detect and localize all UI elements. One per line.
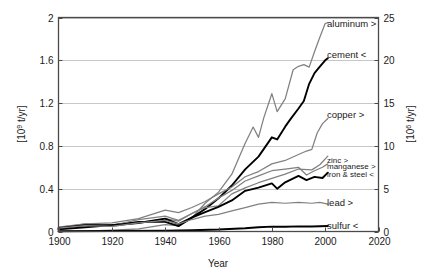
svg-text:[109 t/yr]: [109 t/yr]: [16, 105, 28, 142]
y-left-tick-label: 0.8: [40, 141, 54, 152]
y-right-tick-label: 0: [384, 227, 390, 238]
y-axis-right-ticks: 0510152025: [375, 13, 396, 238]
y-left-tick-label: 2: [48, 13, 54, 24]
series-label: copper >: [327, 109, 365, 120]
x-tick-label: 1960: [208, 236, 231, 247]
y-axis-left-title: [109 t/yr]: [16, 105, 28, 142]
y-left-tick-label: 1.2: [40, 98, 54, 109]
x-axis-title: Year: [208, 258, 229, 269]
series-label: cement <: [327, 49, 367, 60]
y-left-title-main: [10: [16, 128, 27, 142]
svg-text:[106 t/yr]: [106 t/yr]: [405, 105, 417, 142]
y-right-tick-label: 25: [384, 13, 396, 24]
y-right-title-main: [10: [405, 128, 416, 142]
y-right-tick-label: 20: [384, 55, 396, 66]
y-right-title-tail: t/yr]: [405, 105, 416, 125]
series-label: sulfur <: [327, 220, 359, 231]
curve-aluminum: [59, 23, 328, 232]
series-label: aluminum >: [327, 18, 377, 29]
series-label: iron & steel <: [327, 170, 374, 179]
y-left-tick-label: 0.4: [40, 184, 54, 195]
chart-canvas: 1900192019401960198020002020 00.40.81.21…: [0, 0, 436, 277]
x-tick-label: 1920: [101, 236, 124, 247]
curve-iron-steel: [59, 173, 328, 229]
production-trends-chart: 1900192019401960198020002020 00.40.81.21…: [0, 0, 436, 277]
x-tick-label: 1940: [154, 236, 177, 247]
y-right-tick-label: 15: [384, 98, 396, 109]
y-right-tick-label: 5: [384, 184, 390, 195]
y-right-tick-label: 10: [384, 141, 396, 152]
y-left-title-tail: t/yr]: [16, 105, 27, 125]
x-tick-label: 2000: [314, 236, 337, 247]
x-tick-label: 1980: [261, 236, 284, 247]
y-axis-right-title: [106 t/yr]: [405, 105, 417, 142]
series-label: lead >: [327, 197, 354, 208]
data-curves: [59, 23, 328, 232]
series-annotations: aluminum >cement <copper >zinc >manganes…: [327, 18, 377, 230]
y-left-tick-label: 0: [48, 227, 54, 238]
y-left-tick-label: 1.6: [40, 55, 54, 66]
